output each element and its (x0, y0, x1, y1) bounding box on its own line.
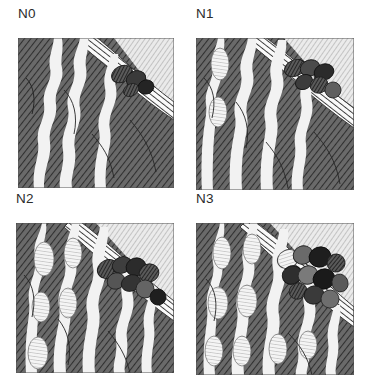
panel-n0[interactable]: N0 (18, 6, 176, 190)
panel-label-n1: N1 (196, 6, 214, 22)
panel-n3[interactable]: N3 (196, 191, 356, 377)
panel-grid: N0 (0, 0, 367, 391)
panel-label-n2: N2 (16, 191, 34, 207)
panel-n2[interactable]: N2 (16, 191, 176, 377)
illustration-n1 (196, 38, 354, 190)
panel-label-n3: N3 (196, 191, 214, 207)
illustration-n2 (16, 223, 174, 373)
panel-artwork-n3 (196, 223, 354, 375)
panel-artwork-n0 (18, 38, 174, 188)
panel-n1[interactable]: N1 (196, 6, 356, 190)
illustration-n0 (18, 38, 174, 188)
panel-artwork-n2 (16, 223, 174, 373)
panel-label-n0: N0 (18, 6, 36, 22)
panel-artwork-n1 (196, 38, 354, 190)
illustration-n3 (196, 223, 354, 375)
